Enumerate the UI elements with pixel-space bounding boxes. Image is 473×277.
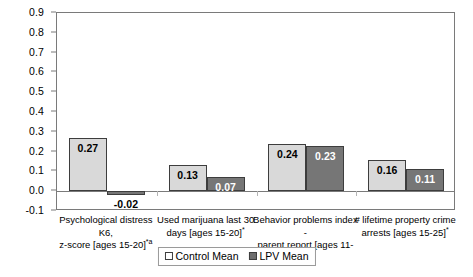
legend-swatch-icon: [249, 252, 257, 260]
x-axis-label-line2: z-score [ages 15-20]*a: [52, 239, 160, 252]
y-axis-tick-label: 0.1: [29, 164, 44, 176]
x-axis-category-labels: Psychological distress K6,z-score [ages …: [56, 214, 455, 248]
legend-label: Control Mean: [175, 250, 238, 262]
y-axis: 0.90.80.70.60.50.40.30.20.10.0-0.1: [0, 12, 52, 210]
legend-entry-lpv: LPV Mean: [249, 250, 309, 262]
x-axis-label-1: Used marijuana last 30days [ages 15-20]*: [152, 214, 260, 239]
bar-chart: 0.90.80.70.60.50.40.30.20.10.0-0.1 0.270…: [0, 0, 473, 277]
y-axis-tick-label: 0.3: [29, 125, 44, 137]
y-axis-tick-label: 0.7: [29, 46, 44, 58]
x-axis-label-footnote-marker: *: [446, 225, 449, 232]
y-axis-tick-label: 0.5: [29, 85, 44, 97]
category-separator-tick: [157, 191, 158, 196]
x-axis-label-line2: arrests [ages 15-25]*: [351, 227, 459, 240]
y-axis-tick-label: 0.0: [29, 184, 44, 196]
category-separator-tick: [356, 191, 357, 196]
x-axis-label-line1: # lifetime property crime: [351, 214, 459, 227]
x-axis-label-3: # lifetime property crimearrests [ages 1…: [351, 214, 459, 239]
bar-value-label: 0.27: [61, 142, 115, 154]
x-axis-label-footnote-marker: *: [242, 225, 245, 232]
bar-value-label: -0.02: [99, 198, 153, 210]
chart-legend: Control MeanLPV Mean: [157, 247, 315, 266]
bar-lpv-0: [107, 191, 145, 195]
y-axis-tick-label: 0.6: [29, 65, 44, 77]
x-axis-label-0: Psychological distress K6,z-score [ages …: [52, 214, 160, 252]
plot-area: 0.270.130.240.16-0.020.070.230.11: [56, 12, 455, 210]
bar-value-label: 0.23: [298, 150, 352, 162]
legend-swatch-icon: [164, 252, 172, 260]
bar-value-label: 0.11: [398, 173, 452, 185]
y-axis-tick-label: 0.8: [29, 26, 44, 38]
x-axis-label-line2: days [ages 15-20]*: [152, 227, 260, 240]
category-separator-tick: [257, 191, 258, 196]
y-axis-tick-label: 0.4: [29, 105, 44, 117]
x-axis-label-line1: Psychological distress K6,: [52, 214, 160, 239]
bar-value-label: 0.07: [199, 181, 253, 193]
x-axis-label-line1: Behavior problems index -: [252, 214, 360, 239]
y-axis-tick-label: -0.1: [26, 204, 45, 216]
legend-label: LPV Mean: [260, 250, 309, 262]
y-axis-tick-label: 0.9: [29, 6, 44, 18]
y-axis-tick-label: 0.2: [29, 145, 44, 157]
legend-entry-control: Control Mean: [164, 250, 238, 262]
